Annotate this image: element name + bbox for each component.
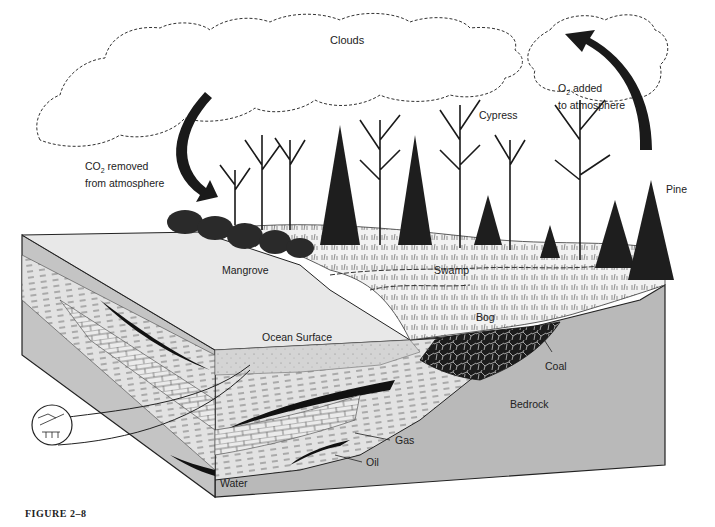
coal-label: Coal	[545, 360, 567, 372]
o2-label: O2 added to atmosphere	[558, 82, 625, 111]
cypress-label: Cypress	[479, 109, 518, 121]
figure-caption: FIGURE 2–8	[25, 508, 86, 519]
bog-label: Bog	[476, 311, 495, 323]
diagram-canvas: Clouds	[0, 0, 715, 527]
clouds-label: Clouds	[330, 34, 365, 46]
oil-label: Oil	[366, 456, 379, 468]
mangrove-label: Mangrove	[222, 264, 269, 276]
co2-arrow-icon	[176, 92, 218, 202]
gas-label: Gas	[395, 434, 414, 446]
diagram-illustration: Clouds	[0, 0, 715, 527]
water-label: Water	[220, 477, 248, 489]
co2-label: CO2 removed from atmosphere	[85, 160, 164, 189]
pine-label: Pine	[666, 183, 687, 195]
bedrock-label: Bedrock	[510, 398, 549, 410]
swamp-label: Swamp	[434, 264, 469, 276]
ocean-surface-label: Ocean Surface	[262, 331, 332, 343]
